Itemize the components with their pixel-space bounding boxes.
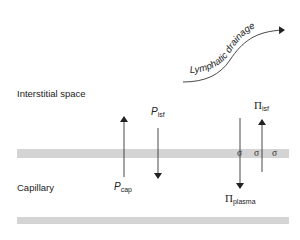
interstitial-space-label: Interstitial space (17, 88, 86, 99)
pi-plasma-base: Π (225, 192, 233, 204)
p-cap-sub: cap (121, 186, 132, 193)
pi-isf-label: Πisf (254, 99, 269, 112)
sigma-3: σ (272, 148, 277, 158)
sigma-1: σ (237, 148, 242, 158)
sigma-2: σ (254, 148, 259, 158)
p-cap-base: P (114, 181, 121, 192)
pi-plasma-sub: plasma (233, 198, 256, 205)
pi-plasma-label: Πplasma (225, 192, 256, 205)
pi-isf-base: Π (254, 99, 262, 111)
p-isf-label: Pisf (151, 106, 165, 118)
p-isf-sub: isf (158, 111, 165, 118)
p-isf-base: P (151, 106, 158, 117)
pi-isf-sub: isf (262, 105, 269, 112)
capillary-label: Capillary (17, 182, 54, 193)
lymphatic-drainage-label: Lymphatic drainage (189, 20, 256, 75)
p-cap-label: Pcap (114, 181, 132, 193)
